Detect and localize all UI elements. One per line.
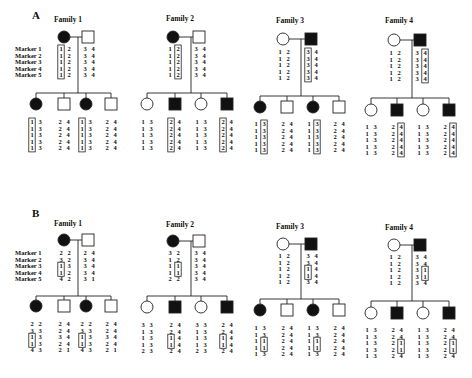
child-allele: 1 xyxy=(307,146,310,153)
mother-symbol xyxy=(167,235,179,247)
mother-symbol xyxy=(167,31,179,43)
child-allele: 4 xyxy=(229,347,233,354)
mother-allele: 1 xyxy=(278,278,281,285)
mother-allele: 2 xyxy=(67,71,70,78)
child-symbol xyxy=(169,301,181,313)
child-allele: 3 xyxy=(315,146,319,153)
father-allele: 4 xyxy=(202,71,206,78)
child-symbol xyxy=(254,101,266,113)
marker-label: Marker 5 xyxy=(15,275,42,282)
child-allele: 1 xyxy=(307,350,310,357)
child-allele: 3 xyxy=(38,144,42,151)
child-symbol xyxy=(254,304,266,316)
child-allele: 2 xyxy=(141,347,144,354)
child-symbol xyxy=(169,98,181,110)
mother-symbol xyxy=(388,239,400,251)
family-title: Family 1 xyxy=(54,15,82,24)
family-title: Family 4 xyxy=(385,223,413,232)
child-allele: 4 xyxy=(289,350,293,357)
child-symbol xyxy=(307,101,319,113)
child-allele: 3 xyxy=(425,149,429,156)
mother-allele: 2 xyxy=(67,275,70,282)
child-symbol xyxy=(195,98,207,110)
child-symbol xyxy=(221,301,233,313)
child-symbol xyxy=(307,304,319,316)
child-symbol xyxy=(58,300,70,312)
father-allele: 4 xyxy=(314,278,318,285)
mother-allele: 2 xyxy=(286,74,289,81)
child-allele: 2 xyxy=(443,352,446,359)
child-allele: 4 xyxy=(66,144,70,151)
mother-allele: 1 xyxy=(278,74,281,81)
child-allele: 1 xyxy=(113,346,116,353)
child-allele: 4 xyxy=(451,149,455,156)
mother-symbol xyxy=(277,238,289,250)
child-symbol xyxy=(391,104,403,116)
child-allele: 4 xyxy=(341,350,345,357)
father-allele: 3 xyxy=(194,71,198,78)
mother-allele: 2 xyxy=(397,75,400,82)
child-allele: 1 xyxy=(365,352,368,359)
panel-label: B xyxy=(32,207,40,219)
child-allele: 4 xyxy=(399,149,403,156)
child-symbol xyxy=(80,300,92,312)
marker-label: Marker 5 xyxy=(15,71,42,78)
father-symbol xyxy=(193,31,205,43)
child-allele: 1 xyxy=(365,149,368,156)
child-allele: 3 xyxy=(203,144,207,151)
mother-symbol xyxy=(388,34,400,46)
child-allele: 4 xyxy=(289,146,293,153)
child-symbol xyxy=(417,104,429,116)
mother-allele: 1 xyxy=(59,71,62,78)
child-allele: 2 xyxy=(333,146,336,153)
child-allele: 3 xyxy=(38,346,42,353)
child-allele: 3 xyxy=(149,144,153,151)
father-allele: 1 xyxy=(91,275,94,282)
child-symbol xyxy=(58,98,70,110)
child-allele: 3 xyxy=(425,352,429,359)
child-allele: 1 xyxy=(254,350,257,357)
child-allele: 4 xyxy=(177,347,181,354)
child-symbol xyxy=(30,98,42,110)
child-symbol xyxy=(105,98,117,110)
child-symbol xyxy=(281,101,293,113)
father-symbol xyxy=(82,31,94,43)
child-allele: 3 xyxy=(203,347,207,354)
father-symbol xyxy=(414,239,426,251)
child-symbol xyxy=(365,104,377,116)
father-symbol xyxy=(414,34,426,46)
child-symbol xyxy=(417,307,429,319)
child-allele: 2 xyxy=(58,144,61,151)
child-allele: 2 xyxy=(333,350,336,357)
family-title: Family 2 xyxy=(166,14,194,23)
family-title: Family 3 xyxy=(276,222,304,231)
child-allele: 2 xyxy=(391,149,394,156)
child-symbol xyxy=(333,304,345,316)
child-allele: 2 xyxy=(391,352,394,359)
child-symbol xyxy=(141,301,153,313)
mother-allele: 2 xyxy=(176,71,179,78)
child-symbol xyxy=(105,300,117,312)
child-allele: 2 xyxy=(105,144,108,151)
father-allele: 3 xyxy=(83,275,87,282)
mother-allele: 2 xyxy=(168,275,171,282)
mother-symbol xyxy=(58,234,70,246)
child-symbol xyxy=(80,98,92,110)
mother-allele: 1 xyxy=(168,71,171,78)
child-allele: 2 xyxy=(443,149,446,156)
child-symbol xyxy=(333,101,345,113)
father-allele: 3 xyxy=(306,74,310,81)
child-allele: 3 xyxy=(149,347,153,354)
child-symbol xyxy=(30,300,42,312)
mother-allele: 2 xyxy=(286,278,289,285)
child-allele: 2 xyxy=(221,144,224,151)
child-allele: 3 xyxy=(88,346,92,353)
child-symbol xyxy=(195,301,207,313)
child-allele: 1 xyxy=(254,146,257,153)
pedigree-figure: AMarker 1Marker 2Marker 3Marker 4Marker … xyxy=(0,0,472,378)
child-allele: 2 xyxy=(281,350,284,357)
child-allele: 1 xyxy=(417,352,420,359)
family-title: Family 1 xyxy=(54,219,82,228)
child-allele: 2 xyxy=(281,146,284,153)
father-allele: 3 xyxy=(194,275,198,282)
